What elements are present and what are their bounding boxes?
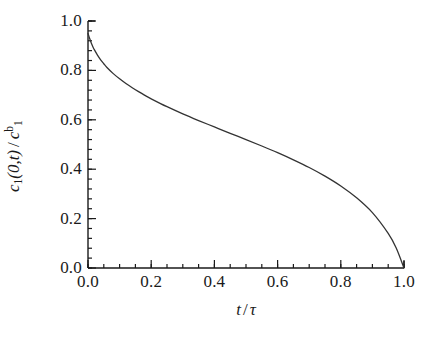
y-axis-title-symbol-2: c: [4, 132, 23, 140]
x-tick-label: 0.6: [267, 272, 289, 292]
x-axis-title-denominator: τ: [250, 300, 256, 319]
y-axis-title-superscript-b: b: [3, 126, 16, 132]
x-tick-label: 0.4: [203, 272, 225, 292]
x-tick-label: 0.2: [140, 272, 162, 292]
axis-frame: [88, 21, 404, 268]
x-axis-ticks: [88, 260, 404, 268]
y-axis-title-subscript: 1: [12, 179, 25, 185]
y-axis-title: c1(0,t)/cb1: [3, 120, 25, 192]
x-tick-label: 1.0: [393, 272, 415, 292]
y-tick-label: 0.0: [60, 258, 82, 278]
y-axis-title-subscript-2: 1: [12, 120, 25, 126]
y-axis-title-symbol: c: [4, 185, 23, 193]
x-tick-label: 0.8: [330, 272, 352, 292]
x-axis-title: t/τ: [236, 300, 256, 320]
figure-container: 0.00.20.40.60.81.0 0.00.20.40.60.81.0 t/…: [0, 0, 434, 341]
y-axis-title-slash: /: [4, 139, 23, 150]
y-tick-label: 0.2: [60, 209, 82, 229]
y-tick-label: 0.8: [60, 60, 82, 80]
y-tick-label: 0.4: [60, 159, 82, 179]
y-tick-label: 0.6: [60, 110, 82, 130]
y-tick-label: 1.0: [60, 11, 82, 31]
y-axis-ticks: [88, 21, 96, 268]
y-axis-title-argument: (0,t): [4, 150, 23, 179]
data-curve-surface-concentration: [88, 33, 404, 268]
